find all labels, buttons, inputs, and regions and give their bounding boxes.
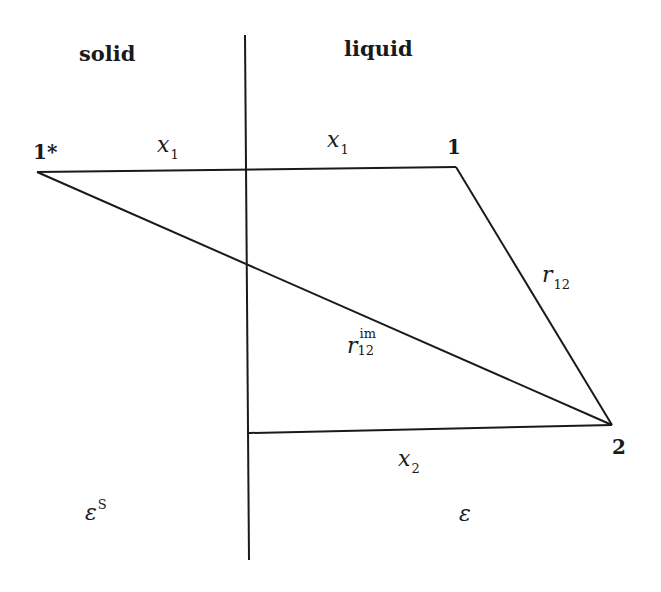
solid-region-label: solid — [79, 43, 135, 64]
liquid-region-label: liquid — [344, 38, 413, 59]
r12-im-label: rim12 — [347, 335, 382, 357]
interface-line — [245, 35, 249, 560]
x2-line — [249, 425, 612, 433]
x1-right-label: x1 — [327, 129, 349, 151]
r12-im-line — [37, 172, 612, 425]
x2-label: x2 — [398, 448, 420, 470]
charge1-label: 1 — [447, 137, 461, 157]
charge2-label: 2 — [612, 437, 626, 457]
r12-label: r12 — [542, 264, 570, 286]
r12-line — [456, 167, 612, 425]
epsilon-liquid-label: ε — [459, 503, 471, 525]
epsilon-solid-label: εS — [85, 502, 107, 524]
image-charge-label: 1* — [33, 142, 57, 162]
x1-left-label: x1 — [157, 134, 179, 156]
